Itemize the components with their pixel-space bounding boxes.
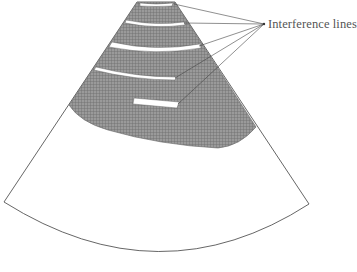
leader-line-2 — [184, 23, 264, 24]
interference-lines-label: Interference lines — [268, 17, 357, 32]
leader-line-3 — [199, 24, 264, 46]
leader-convergence-point — [263, 23, 265, 25]
